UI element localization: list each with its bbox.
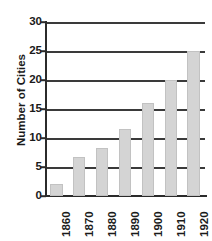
x-tick-label: 1880 [107,211,119,237]
x-tick-label: 1890 [130,211,142,237]
bar [142,103,154,196]
y-tick-label: 10 [16,132,42,144]
bar [119,129,131,196]
bar [165,80,177,196]
bar [187,51,199,196]
bar-series [45,22,205,196]
y-axis-tick-labels: 051015202530 [16,0,42,241]
x-axis-tick-labels: 1860187018801890190019101920 [45,197,205,241]
y-tick-label: 0 [16,190,42,202]
y-tick-label: 5 [16,161,42,173]
y-tick-label: 15 [16,103,42,115]
x-tick-label: 1860 [61,211,73,237]
x-tick-label: 1900 [153,211,165,237]
x-tick-label: 1920 [199,211,211,237]
x-tick-label: 1870 [84,211,96,237]
y-tick-label: 25 [16,45,42,57]
x-tick-label: 1910 [176,211,188,237]
bar [50,184,62,196]
bar [96,148,108,196]
bar [73,157,85,196]
bar-chart: Number of Cities 051015202530 1860187018… [0,0,212,241]
y-tick-label: 20 [16,74,42,86]
y-tick-label: 30 [16,16,42,28]
